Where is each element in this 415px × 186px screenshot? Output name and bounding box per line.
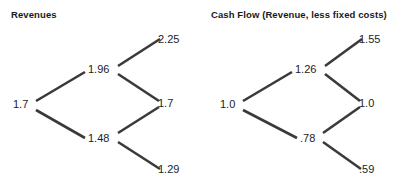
- cashflow-edges: [207, 0, 414, 186]
- edge-root-up: [36, 72, 85, 101]
- node-revenues-root: 1.7: [13, 98, 28, 110]
- cashflow-lattice-panel: Cash Flow (Revenue, less fixed costs) 1.…: [207, 0, 414, 186]
- edge-up-upup: [118, 39, 160, 66]
- node-cashflow-up: 1.26: [295, 63, 316, 75]
- node-revenues-up: 1.96: [88, 63, 109, 75]
- revenues-edges: [0, 0, 207, 186]
- edge-up-updown: [325, 74, 360, 101]
- edge-down-downdown: [323, 142, 361, 169]
- revenues-lattice-panel: Revenues 1.7 1.96 1.48 2.25 1.7 1.29: [0, 0, 207, 186]
- edge-root-down: [243, 110, 297, 138]
- node-revenues-up-down: 1.7: [158, 97, 173, 109]
- edge-down-updown: [323, 107, 360, 133]
- node-cashflow-up-down: 1.0: [359, 97, 374, 109]
- node-cashflow-down-down: .59: [359, 163, 374, 175]
- node-cashflow-down: .78: [300, 132, 315, 144]
- edge-down-downdown: [118, 142, 160, 169]
- edge-up-updown: [118, 74, 159, 101]
- node-cashflow-root: 1.0: [220, 98, 235, 110]
- edge-root-down: [36, 110, 85, 138]
- node-revenues-up-up: 2.25: [158, 33, 179, 45]
- edge-up-upup: [325, 39, 362, 66]
- diagram-canvas: Revenues 1.7 1.96 1.48 2.25 1.7 1.29 Cas…: [0, 0, 415, 186]
- edge-root-up: [243, 72, 292, 101]
- edge-down-updown: [118, 107, 159, 133]
- node-cashflow-up-up: 1.55: [359, 33, 380, 45]
- node-revenues-down: 1.48: [88, 132, 109, 144]
- node-revenues-down-down: 1.29: [158, 163, 179, 175]
